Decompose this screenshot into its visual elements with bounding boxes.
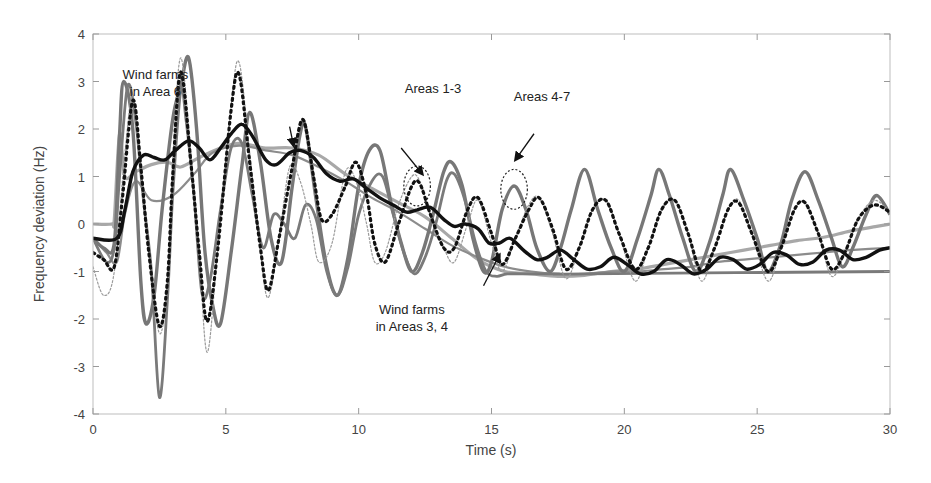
annotation-area6: Wind farms: [123, 67, 189, 82]
x-tick-label: 0: [89, 422, 96, 437]
y-tick-label: -2: [73, 312, 85, 327]
y-tick-label: -1: [73, 265, 85, 280]
annotation-arrow-icon: [515, 134, 534, 160]
series-line-6: [93, 124, 890, 274]
annotation-area6: in Area 6: [130, 84, 181, 99]
plot-frame: [93, 34, 890, 414]
plot-lines: [93, 57, 890, 398]
y-tick-label: 0: [78, 217, 85, 232]
y-tick-label: 2: [78, 122, 85, 137]
x-tick-label: 15: [484, 422, 498, 437]
annotation-areas13: Areas 1-3: [405, 81, 461, 96]
x-tick-label: 30: [883, 422, 897, 437]
y-axis-label: Frequency deviation (Hz): [31, 146, 47, 302]
x-axis-label: Time (s): [466, 442, 517, 458]
x-tick-label: 10: [351, 422, 365, 437]
x-tick-label: 5: [222, 422, 229, 437]
series-line-3: [93, 84, 890, 397]
annotation-areas34: in Areas 3, 4: [376, 319, 448, 334]
annotation-arrow-icon: [401, 148, 422, 174]
annotation-areas34: Wind farms: [379, 302, 445, 317]
y-tick-label: 4: [78, 27, 85, 42]
y-tick-label: -3: [73, 360, 85, 375]
y-tick-label: 3: [78, 75, 85, 90]
annotation-arrow-icon: [290, 127, 294, 146]
y-tick-label: 1: [78, 170, 85, 185]
x-tick-label: 20: [617, 422, 631, 437]
frequency-deviation-chart: 05101520253043210-1-2-3-4 Wind farmsin A…: [0, 0, 931, 483]
x-tick-label: 25: [750, 422, 764, 437]
y-tick-label: -4: [73, 407, 85, 422]
annotation-areas47: Areas 4-7: [514, 89, 570, 104]
series-line-5: [93, 72, 890, 327]
